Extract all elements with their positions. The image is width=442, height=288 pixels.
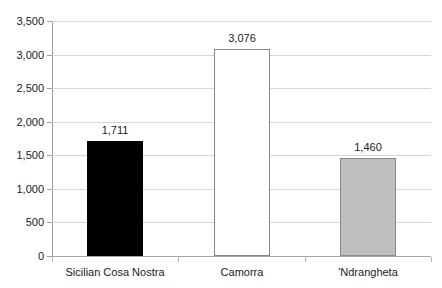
bar-chart: 05001,0001,5002,0002,5003,0003,500 1,711… xyxy=(0,0,442,288)
y-axis-tick-mark xyxy=(47,88,52,89)
y-axis-tick-label: 0 xyxy=(0,251,44,262)
y-axis-tick-mark xyxy=(47,189,52,190)
x-axis-tick-mark xyxy=(52,257,53,262)
x-axis-category-label: 'Ndrangheta xyxy=(288,266,442,278)
bar xyxy=(87,141,143,256)
y-axis-tick-mark xyxy=(47,55,52,56)
y-axis-tick-mark xyxy=(47,155,52,156)
y-axis-tick-label: 3,000 xyxy=(0,50,44,61)
y-axis-tick-mark xyxy=(47,222,52,223)
x-axis-tick-mark xyxy=(305,257,306,262)
bar-value-label: 3,076 xyxy=(202,33,282,44)
plot-area xyxy=(52,21,431,256)
y-axis-tick-label: 1,000 xyxy=(0,184,44,195)
y-axis-tick-label: 1,500 xyxy=(0,150,44,161)
x-axis-tick-mark xyxy=(178,257,179,262)
y-axis-tick-mark xyxy=(47,122,52,123)
y-axis-tick-mark xyxy=(47,21,52,22)
bar-value-label: 1,460 xyxy=(328,142,408,153)
y-axis-labels: 05001,0001,5002,0002,5003,0003,500 xyxy=(0,0,44,288)
x-axis-tick-mark xyxy=(431,257,432,262)
y-axis-tick-label: 2,500 xyxy=(0,83,44,94)
gridline xyxy=(52,21,431,22)
bar-value-label: 1,711 xyxy=(75,125,155,136)
y-axis-tick-label: 500 xyxy=(0,217,44,228)
y-axis-tick-label: 3,500 xyxy=(0,16,44,27)
bar xyxy=(340,158,396,256)
gridline xyxy=(52,256,431,257)
bar xyxy=(214,49,270,256)
y-axis-tick-label: 2,000 xyxy=(0,117,44,128)
